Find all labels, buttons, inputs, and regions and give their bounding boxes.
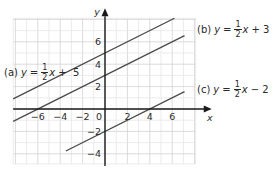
fraction-numerator: 1 <box>234 80 241 90</box>
label-line-b: (b) y = 1 2 x + 3 <box>197 20 269 39</box>
line-tag: (a) <box>4 68 18 78</box>
tick-labels: −6−4−20246642−2−4xy <box>31 6 213 159</box>
y-axis-label: y <box>93 6 100 17</box>
fraction-one-half: 1 2 <box>41 63 48 82</box>
y-variable: y <box>213 85 219 95</box>
x-tick-label: −4 <box>53 111 67 122</box>
y-variable: y <box>214 25 220 35</box>
y-tick-label: −2 <box>87 126 101 137</box>
fraction-numerator: 1 <box>234 20 241 30</box>
equals-sign: = <box>223 25 231 35</box>
x-tick-label: 2 <box>124 111 130 122</box>
x-variable: x <box>242 85 248 95</box>
x-variable: x <box>49 68 55 78</box>
constant-term: − 2 <box>251 85 269 95</box>
x-tick-label: −6 <box>31 111 45 122</box>
y-axis-arrow-icon <box>102 8 109 16</box>
y-tick-label: 2 <box>95 81 101 92</box>
constant-term: + 5 <box>58 68 79 78</box>
line-tag: (c) <box>197 85 210 95</box>
fraction-one-half: 1 2 <box>234 80 241 99</box>
equals-sign: = <box>30 68 38 78</box>
x-variable: x <box>243 25 249 35</box>
x-tick-label: 0 <box>96 111 102 122</box>
fraction-one-half: 1 2 <box>234 20 241 39</box>
label-line-a: (a) y = 1 2 x + 5 <box>4 63 79 82</box>
equals-sign: = <box>222 85 230 95</box>
x-tick-label: −2 <box>76 111 90 122</box>
x-tick-label: 4 <box>147 111 153 122</box>
label-line-c: (c) y = 1 2 x − 2 <box>197 80 269 99</box>
y-tick-label: 6 <box>95 36 101 47</box>
y-tick-label: 4 <box>95 59 101 70</box>
fraction-denominator: 2 <box>42 73 47 82</box>
fraction-denominator: 2 <box>235 30 240 39</box>
fraction-denominator: 2 <box>235 90 240 99</box>
fraction-numerator: 1 <box>41 63 48 73</box>
y-tick-label: −4 <box>87 148 101 159</box>
constant-term: + 3 <box>251 25 269 35</box>
x-tick-label: 6 <box>169 111 175 122</box>
line-tag: (b) <box>197 25 211 35</box>
y-variable: y <box>21 68 27 78</box>
x-axis-label: x <box>206 112 213 123</box>
